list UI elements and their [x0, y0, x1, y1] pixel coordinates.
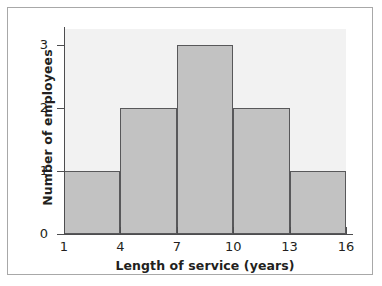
y-tick-mark [57, 171, 65, 172]
x-axis-line [57, 234, 353, 235]
x-tick-label: 10 [218, 240, 248, 253]
x-tick-label: 7 [162, 240, 192, 253]
x-tick-mark [177, 227, 178, 235]
histogram-bar [120, 108, 176, 234]
y-tick-label: 0 [24, 227, 48, 240]
x-tick-label: 4 [105, 240, 135, 253]
x-tick-label: 13 [275, 240, 305, 253]
plot-area [64, 29, 346, 234]
bars-layer [64, 29, 346, 234]
x-tick-label: 16 [331, 240, 361, 253]
y-axis-title: Number of employees [40, 28, 55, 228]
y-axis-line [64, 27, 65, 235]
histogram-bar [290, 171, 346, 234]
histogram-chart: 0123 147101316 Length of service (years)… [8, 8, 374, 276]
x-tick-mark [120, 227, 121, 235]
x-tick-mark [64, 227, 65, 235]
x-tick-mark [233, 227, 234, 235]
histogram-bar [233, 108, 289, 234]
x-tick-label: 1 [49, 240, 79, 253]
figure-frame: 0123 147101316 Length of service (years)… [7, 7, 373, 275]
histogram-bar [177, 45, 233, 234]
y-tick-mark [57, 45, 65, 46]
histogram-bar [64, 171, 120, 234]
x-axis-title: Length of service (years) [64, 258, 346, 273]
y-tick-mark [57, 108, 65, 109]
x-tick-mark [290, 227, 291, 235]
x-tick-mark [346, 227, 347, 235]
